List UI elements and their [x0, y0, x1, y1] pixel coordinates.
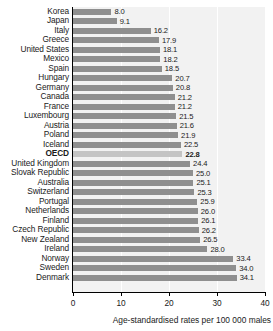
bar-row-label: Denmark: [0, 273, 69, 283]
bar: [73, 218, 198, 224]
bar-track: 22.8: [73, 151, 265, 157]
x-axis-tick-label: 20: [164, 298, 173, 308]
bar-value-label: 8.0: [114, 7, 124, 17]
bar-track: 26.1: [73, 218, 265, 224]
bar: [73, 94, 175, 100]
bar-value-label: 9.1: [120, 17, 130, 27]
bar: [73, 66, 162, 72]
bar-value-label: 18.1: [163, 45, 177, 55]
bar-value-label: 25.9: [200, 197, 214, 207]
bar: [73, 189, 194, 195]
bar-value-label: 26.5: [203, 235, 217, 245]
bar-value-label: 20.7: [175, 74, 189, 84]
bar: [73, 37, 159, 43]
x-axis-tick-label: 30: [212, 298, 221, 308]
bar-track: 26.0: [73, 208, 265, 214]
x-axis-tick: [73, 292, 74, 296]
bar: [73, 265, 236, 271]
chart-title-remnant: [0, 0, 273, 5]
bar-track: 21.9: [73, 132, 265, 138]
bar: [73, 47, 160, 53]
x-axis-tick-label: 0: [71, 298, 76, 308]
bar-track: 9.1: [73, 18, 265, 24]
bar-track: 25.3: [73, 189, 265, 195]
bar-track: 28.0: [73, 246, 265, 252]
bar-track: 21.5: [73, 113, 265, 119]
bar: [73, 123, 177, 129]
bar: [73, 151, 182, 157]
bar-value-label: 26.2: [202, 226, 216, 236]
bar-value-label: 18.5: [165, 64, 179, 74]
bar: [73, 161, 190, 167]
bar-value-label: 21.2: [178, 93, 192, 103]
bar-track: 26.2: [73, 227, 265, 233]
bar-track: 25.0: [73, 170, 265, 176]
bar-value-label: 26.1: [201, 216, 215, 226]
x-axis-tick: [121, 292, 122, 296]
bar-track: 18.1: [73, 47, 265, 53]
bar: [73, 9, 111, 15]
bar-track: 20.7: [73, 75, 265, 81]
bar-track: 33.4: [73, 256, 265, 262]
bar-value-label: 33.4: [236, 254, 250, 264]
bar: [73, 199, 197, 205]
x-axis-tick-label: 40: [260, 298, 269, 308]
bar-value-label: 20.8: [176, 83, 190, 93]
bar-value-label: 21.9: [181, 131, 195, 141]
x-axis-tick: [217, 292, 218, 296]
bar: [73, 142, 181, 148]
bar-track: 34.0: [73, 265, 265, 271]
bar-value-label: 34.1: [240, 273, 254, 283]
bar-value-label: 28.0: [210, 245, 224, 255]
bar: [73, 208, 198, 214]
bar-track: 21.2: [73, 94, 265, 100]
bar-value-label: 34.0: [239, 264, 253, 274]
bar-value-label: 21.5: [179, 112, 193, 122]
bar-value-label: 25.0: [196, 169, 210, 179]
bar: [73, 256, 233, 262]
bar-rows: Korea8.0Japan9.1Italy16.2Greece17.9Unite…: [0, 7, 273, 292]
bar: [73, 227, 199, 233]
x-axis-tick-label: 10: [116, 298, 125, 308]
bar-track: 21.2: [73, 104, 265, 110]
bar-value-label: 17.9: [162, 36, 176, 46]
bar-track: 26.5: [73, 237, 265, 243]
bar: [73, 275, 237, 281]
bar-value-label: 24.4: [193, 159, 207, 169]
bar-track: 34.1: [73, 275, 265, 281]
bar-track: 22.5: [73, 142, 265, 148]
x-axis-tick: [265, 292, 266, 296]
bar-track: 20.8: [73, 85, 265, 91]
bar-value-label: 18.2: [163, 55, 177, 65]
bar: [73, 104, 175, 110]
bar: [73, 132, 178, 138]
bar-value-label: 22.5: [184, 140, 198, 150]
bar-track: 16.2: [73, 28, 265, 34]
bar-value-label: 26.0: [201, 207, 215, 217]
bar: [73, 56, 160, 62]
bar: [73, 113, 176, 119]
bar-row: Denmark34.1: [0, 273, 273, 283]
bar-track: 17.9: [73, 37, 265, 43]
bar-track: 18.2: [73, 56, 265, 62]
bar-value-label: 22.8: [185, 150, 199, 160]
bar-track: 24.4: [73, 161, 265, 167]
bar: [73, 85, 173, 91]
bar: [73, 170, 193, 176]
x-axis-tick: [169, 292, 170, 296]
bar: [73, 237, 200, 243]
bar-track: 8.0: [73, 9, 265, 15]
bar: [73, 75, 172, 81]
bar-value-label: 25.3: [197, 188, 211, 198]
bar: [73, 28, 151, 34]
bar-value-label: 16.2: [154, 26, 168, 36]
bar-value-label: 21.2: [178, 102, 192, 112]
bar-track: 25.9: [73, 199, 265, 205]
bar: [73, 18, 117, 24]
bar-track: 25.1: [73, 180, 265, 186]
bar-chart: Korea8.0Japan9.1Italy16.2Greece17.9Unite…: [0, 0, 273, 331]
bar-value-label: 25.1: [196, 178, 210, 188]
x-axis-title: Age-standardised rates per 100 000 males: [0, 315, 271, 326]
bar: [73, 180, 193, 186]
bar: [73, 246, 207, 252]
